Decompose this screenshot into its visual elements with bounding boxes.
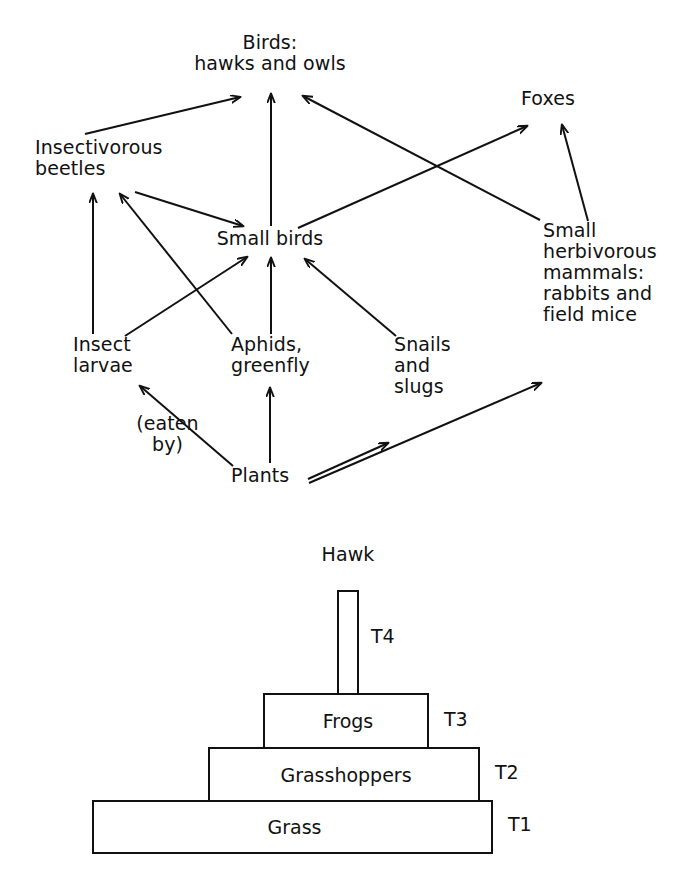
node-insect-larvae: Insect larvae xyxy=(73,334,193,376)
pyramid-level-t2-label: Grasshoppers xyxy=(210,765,482,786)
node-small-birds: Small birds xyxy=(190,228,350,249)
node-small-herbivorous-mammals: Small herbivorous mammals: rabbits and f… xyxy=(543,220,696,325)
pyramid-level-t1: Grass xyxy=(92,800,493,854)
edge-snails-to-smallbirds xyxy=(305,259,396,336)
figure-canvas: Birds: hawks and owls Foxes Insectivorou… xyxy=(0,0,696,886)
pyramid-level-t2: Grasshoppers xyxy=(208,747,480,802)
tier-label-t2: T2 xyxy=(495,762,519,783)
edge-beetles-to-birds xyxy=(85,97,240,134)
edge-mammals-to-birds xyxy=(303,96,540,220)
node-foxes: Foxes xyxy=(488,88,608,109)
pyramid-level-t4 xyxy=(337,590,359,695)
tier-label-t4: T4 xyxy=(371,626,395,647)
tier-label-t1: T1 xyxy=(508,814,532,835)
edge-larvae-to-smallbirds xyxy=(125,257,247,336)
pyramid-level-t1-label: Grass xyxy=(94,817,495,838)
edge-aphids-to-beetles xyxy=(120,194,232,334)
edge-mammals-to-foxes xyxy=(562,125,588,221)
edge-plants-to-mammals xyxy=(309,383,541,483)
node-plants: Plants xyxy=(231,465,321,486)
edge-beetles-to-smallbirds xyxy=(135,192,243,226)
tier-label-t3: T3 xyxy=(444,709,468,730)
edge-smallbirds-to-foxes xyxy=(298,126,527,228)
node-snails-and-slugs: Snails and slugs xyxy=(394,334,504,397)
node-birds: Birds: hawks and owls xyxy=(160,32,380,74)
pyramid-apex-label-hawk: Hawk xyxy=(288,544,408,565)
pyramid-level-t3: Frogs xyxy=(263,693,429,749)
edge-caption-eaten-by: (eaten by) xyxy=(120,413,215,455)
node-insectivorous-beetles: Insectivorous beetles xyxy=(35,137,245,179)
node-aphids-greenfly: Aphids, greenfly xyxy=(231,334,351,376)
pyramid-level-t3-label: Frogs xyxy=(265,711,431,732)
